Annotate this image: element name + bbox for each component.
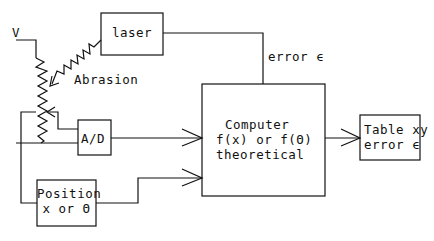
position-label-line1: Position: [37, 186, 96, 201]
position-label-line2: x or Θ: [37, 201, 96, 216]
table-label-line2: error ϵ: [364, 137, 428, 152]
abrasion-label: Abrasion: [74, 72, 138, 87]
position-to-computer-line: [96, 178, 202, 203]
voltage-label: V: [12, 25, 20, 40]
error-signal-label: error ϵ: [268, 49, 324, 64]
position-feed-line: [21, 112, 37, 203]
table-label-line1: Table xy: [364, 122, 428, 137]
ad-label: A/D: [81, 131, 105, 146]
computer-label-line2: f(x) or f(Θ): [216, 132, 312, 147]
voltage-line: [16, 40, 36, 58]
position-label: Position x or Θ: [37, 186, 96, 216]
table-label: Table xy error ϵ: [364, 122, 428, 152]
computer-label-line1: Computer: [216, 117, 312, 132]
potentiometer-resistor: [36, 58, 47, 143]
error-line: [163, 33, 263, 84]
computer-label: Computer f(x) or f(Θ) theoretical: [216, 117, 312, 162]
laser-label: laser: [112, 25, 152, 40]
computer-label-line3: theoretical: [216, 147, 312, 162]
wiper-line: [48, 112, 78, 129]
